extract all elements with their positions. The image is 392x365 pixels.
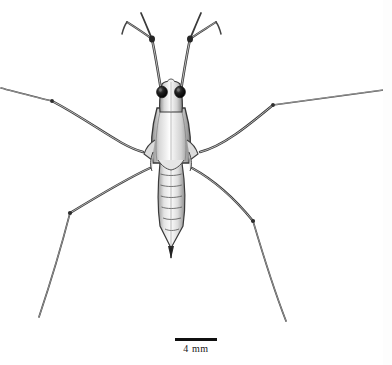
water-strider-illustration xyxy=(0,0,392,365)
compound-eye-right xyxy=(175,86,186,98)
scale-bar: 4 mm xyxy=(0,338,392,354)
scale-bar-label: 4 mm xyxy=(0,343,392,354)
figure-background xyxy=(0,0,392,365)
paper-edge-strip xyxy=(383,0,392,365)
scale-bar-line xyxy=(175,338,217,341)
compound-eye-left xyxy=(157,86,168,98)
